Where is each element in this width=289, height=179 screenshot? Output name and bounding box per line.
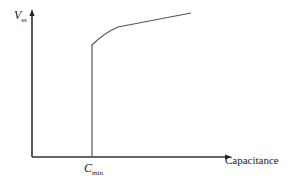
y-axis-label: Vss: [14, 8, 27, 24]
x-axis-label: Capacitance: [225, 154, 279, 166]
y-axis-arrow-icon: [30, 9, 35, 16]
cmin-label: Cmin: [84, 161, 103, 177]
chart-canvas: [0, 0, 289, 179]
vss-curve: [92, 13, 191, 157]
